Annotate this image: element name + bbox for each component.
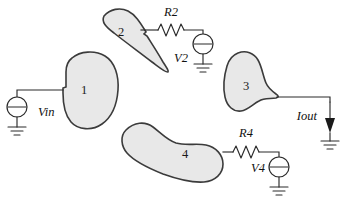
r4-right-wire: [259, 152, 279, 157]
vin-wire: [17, 90, 63, 97]
vin-branch-group: Vin: [7, 90, 63, 135]
ground-v2: [194, 64, 212, 72]
circuit-diagram-svg: 1 2 3 4 Vin: [0, 0, 348, 207]
region-2-label: 2: [118, 25, 124, 39]
current-iout-arrow[interactable]: [325, 102, 335, 133]
source-v4-label: V4: [251, 161, 265, 175]
circuit-diagram-canvas: 1 2 3 4 Vin: [0, 0, 348, 207]
region-1-blob[interactable]: [63, 52, 118, 129]
source-v2-label: V2: [174, 51, 188, 65]
iout-branch-group: Iout: [277, 97, 339, 149]
region-4-label: 4: [182, 147, 189, 161]
r2-right-wire: [184, 30, 203, 34]
ground-v4: [270, 187, 288, 195]
region-4-blob[interactable]: [122, 123, 223, 182]
resistor-r4-label: R4: [238, 126, 253, 140]
ground-vin: [8, 127, 26, 135]
region-1-label: 1: [81, 83, 87, 97]
ground-iout: [321, 141, 339, 149]
resistor-r2-symbol[interactable]: [158, 24, 184, 36]
resistor-r2-label: R2: [163, 5, 178, 19]
source-vin-label: Vin: [38, 105, 54, 119]
region-3-blob[interactable]: [224, 52, 278, 111]
r4-v4-branch-group: R4 V4: [223, 126, 289, 195]
resistor-r4-symbol[interactable]: [233, 146, 259, 158]
region-blobs-group: [63, 9, 278, 182]
iout-wire: [277, 97, 330, 102]
region-3-label: 3: [243, 79, 249, 93]
current-iout-label: Iout: [296, 109, 318, 123]
